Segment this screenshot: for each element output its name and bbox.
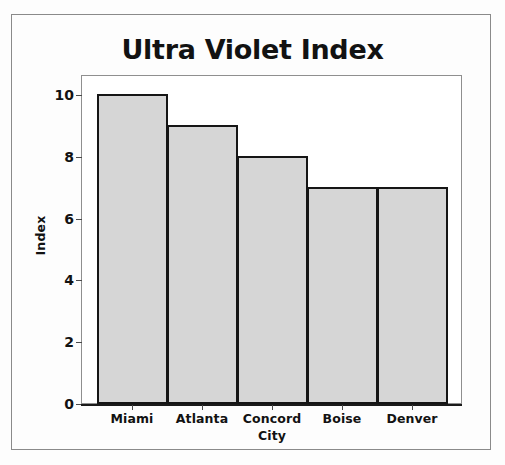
- bar: [377, 187, 448, 404]
- y-axis-tick-label: 8: [48, 150, 74, 164]
- x-axis-tick-label: ConcordCity: [237, 411, 307, 444]
- x-axis-tick-label: Miami: [97, 411, 167, 428]
- x-axis-label-line: Atlanta: [167, 411, 237, 428]
- x-axis-label-line: City: [237, 428, 307, 445]
- x-axis-tick-mark: [272, 405, 273, 410]
- x-axis-label-line: Concord: [237, 411, 307, 428]
- y-axis-tick-label: 0: [48, 397, 74, 411]
- bar: [167, 125, 238, 404]
- x-axis-tick-label: Denver: [377, 411, 447, 428]
- x-axis-tick-mark: [202, 405, 203, 410]
- x-axis-tick-mark: [412, 405, 413, 410]
- x-axis-tick-mark: [342, 405, 343, 410]
- x-axis-tick-label: Boise: [307, 411, 377, 428]
- x-axis-label-line: Boise: [307, 411, 377, 428]
- bar: [237, 156, 308, 404]
- x-axis-tick-mark: [132, 405, 133, 410]
- x-axis-tick-label: Atlanta: [167, 411, 237, 428]
- y-axis-title: Index: [33, 191, 48, 281]
- y-axis-tick-label: 10: [48, 88, 74, 102]
- y-axis-tick-label: 4: [48, 273, 74, 287]
- bar: [307, 187, 378, 404]
- bar-series-group: [81, 75, 462, 405]
- x-axis-label-line: Denver: [377, 411, 447, 428]
- chart-title: Ultra Violet Index: [0, 34, 505, 65]
- y-axis-tick-label: 6: [48, 212, 74, 226]
- bar: [97, 94, 168, 404]
- x-axis-label-line: Miami: [97, 411, 167, 428]
- chart-figure: Ultra Violet Index Index 1086420 MiamiAt…: [0, 0, 505, 465]
- y-axis-tick-label: 2: [48, 335, 74, 349]
